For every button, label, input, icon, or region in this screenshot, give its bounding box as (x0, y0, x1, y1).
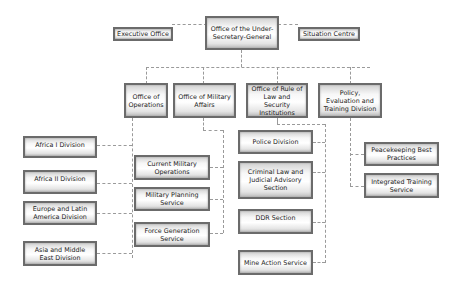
box-africa-ii-division: Africa II Division (23, 170, 97, 194)
connector (210, 167, 223, 168)
connector (350, 186, 364, 187)
box-peacekeeping-best-practices: Peacekeeping Best Practices (364, 142, 439, 166)
connector (172, 24, 207, 25)
box-policy-evaluation-training: Policy, Evaluation and Training Division (318, 83, 382, 118)
box-asia-middle-east-division: Asia and Middle East Division (23, 241, 97, 266)
connector (97, 213, 132, 214)
connector (146, 67, 147, 84)
connector (146, 67, 370, 68)
connector (277, 67, 278, 84)
box-under-secretary-general: Office of the Under-Secretary-General (205, 16, 279, 50)
connector (132, 118, 133, 258)
connector (277, 124, 325, 125)
connector (313, 222, 325, 223)
connector (313, 172, 325, 173)
connector (97, 253, 132, 254)
box-mine-action-service: Mine Action Service (238, 250, 313, 275)
box-criminal-law-judicial-advisory: Criminal Law and Judicial Advisory Secti… (238, 161, 313, 199)
box-current-military-operations: Current Military Operations (134, 155, 210, 180)
connector (223, 130, 224, 233)
box-office-of-operations: Office of Operations (124, 83, 168, 118)
box-ddr-section: DDR Section (238, 209, 313, 234)
box-police-division: Police Division (238, 130, 313, 154)
connector (97, 145, 132, 146)
box-africa-i-division: Africa I Division (23, 136, 97, 158)
connector (278, 24, 298, 25)
box-executive-office: Executive Office (113, 27, 173, 41)
box-situation-centre: Situation Centre (298, 27, 360, 41)
connector (203, 67, 204, 84)
connector (203, 118, 204, 130)
connector (350, 67, 351, 84)
connector (241, 50, 242, 67)
box-military-planning-service: Military Planning Service (134, 187, 210, 211)
connector (350, 154, 364, 155)
connector (325, 124, 326, 263)
box-office-of-military-affairs: Office of Military Affairs (173, 83, 236, 118)
box-europe-latin-america-division: Europe and Latin America Division (23, 201, 97, 225)
connector (313, 262, 325, 263)
box-office-of-rule-of-law: Office of Rule of Law and Security Insti… (246, 83, 308, 118)
connector (350, 118, 351, 186)
connector (97, 183, 132, 184)
connector (313, 142, 325, 143)
box-integrated-training-service: Integrated Training Service (364, 173, 439, 198)
box-force-generation-service: Force Generation Service (134, 222, 210, 247)
connector (203, 130, 223, 131)
connector (210, 233, 223, 234)
connector (210, 199, 223, 200)
